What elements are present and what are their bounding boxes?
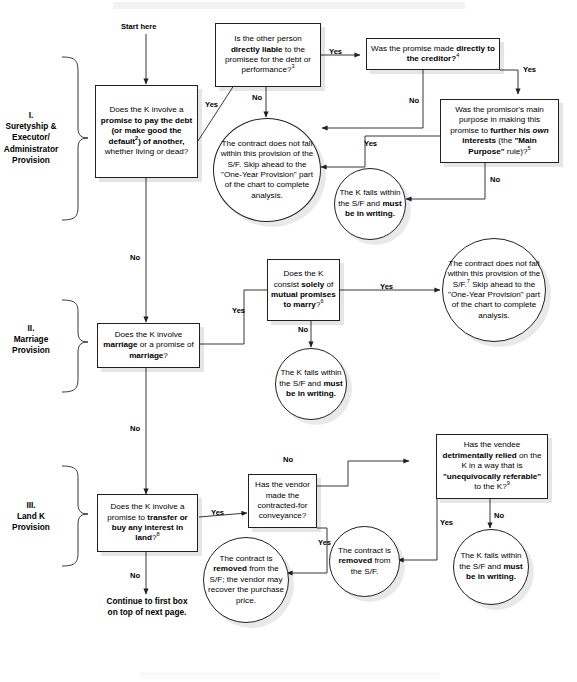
edge-label-q9-yes: Yes: [440, 518, 453, 527]
edge-label-q6-no: No: [298, 325, 308, 334]
node-c7-k-falls-within-sf-land[interactable]: The K falls within the S/F and must be i…: [453, 529, 529, 605]
edge-label-q2-no: No: [252, 93, 262, 102]
node-q3-promise-to-creditor[interactable]: Was the promise made directly to the cre…: [366, 38, 500, 70]
node-q4-text: Was the promisor's main purpose in makin…: [441, 105, 558, 157]
node-c2-k-falls-within-sf[interactable]: The K falls within the S/F and must be i…: [334, 168, 406, 240]
edge-label-q7-no: No: [130, 571, 140, 580]
continue-to-next-page-note: Continue to first box on top of next pag…: [80, 596, 214, 618]
section-label-suretyship: I.Suretyship &Executor/AdministratorProv…: [2, 110, 60, 166]
node-c5-contract-removed-vendor-recovers[interactable]: The contract is removed from the S/F; th…: [203, 537, 289, 623]
node-q1-text: Does the K involve a promise to pay the …: [96, 105, 197, 157]
edge-label-q2-yes: Yes: [329, 47, 342, 56]
node-q7-text: Does the K involve a promise to transfer…: [98, 502, 197, 544]
edge-label-q4-no: No: [490, 175, 500, 184]
node-q3-text: Was the promise made directly to the cre…: [367, 44, 499, 65]
node-c5-text: The contract is removed from the S/F; th…: [204, 554, 288, 606]
header-band: [113, 2, 465, 9]
node-q2-text: Is the other person directly liable to t…: [216, 34, 320, 76]
node-c1-contract-not-within-sf[interactable]: The contract does not fall within this p…: [213, 118, 321, 222]
node-q8-vendor-conveyance[interactable]: Has the vendor made the contracted-for c…: [248, 474, 317, 528]
node-c6-text: The contract is removed from the S/F.: [330, 546, 399, 577]
edge-label-q1-no: No: [130, 253, 140, 262]
node-q6-mutual-promises-to-marry[interactable]: Does the K consist solely of mutual prom…: [267, 259, 340, 321]
edge-label-q3-no: No: [409, 96, 419, 105]
edge-label-q5-no: No: [130, 424, 140, 433]
node-c3-contract-not-within-sf-marriage[interactable]: The contract does not fall within this p…: [442, 238, 546, 342]
node-q4-main-purpose-rule[interactable]: Was the promisor's main purpose in makin…: [440, 99, 559, 163]
edge-label-q5-yes: Yes: [232, 306, 245, 315]
node-c1-text: The contract does not fall within this p…: [214, 139, 320, 201]
statute-of-frauds-flowchart: I.Suretyship &Executor/AdministratorProv…: [0, 0, 577, 682]
edge-label-q7-yes: Yes: [211, 508, 224, 517]
node-q1-promise-to-pay-debt[interactable]: Does the K involve a promise to pay the …: [95, 85, 198, 178]
section-label-marriage: II.MarriageProvision: [2, 323, 60, 357]
node-q8-text: Has the vendor made the contracted-for c…: [249, 480, 316, 522]
start-here-label: Start here: [121, 22, 156, 31]
node-q9-text: Has the vendee detrimentally relied on t…: [437, 440, 547, 492]
node-c2-text: The K falls within the S/F and must be i…: [335, 188, 405, 219]
edge-label-q1-yes: Yes: [205, 100, 218, 109]
node-q2-directly-liable[interactable]: Is the other person directly liable to t…: [215, 23, 321, 87]
edge-label-q4-yes: Yes: [364, 139, 377, 148]
node-c6-contract-removed[interactable]: The contract is removed from the S/F.: [329, 526, 400, 597]
node-q7-interest-in-land[interactable]: Does the K involve a promise to transfer…: [97, 494, 198, 552]
node-q6-text: Does the K consist solely of mutual prom…: [268, 269, 339, 311]
node-q5-text: Does the K involve marriage or a promise…: [98, 330, 199, 361]
node-c3-text: The contract does not fall within this p…: [443, 259, 545, 321]
node-c4-k-falls-within-sf-marriage[interactable]: The K falls within the S/F and must be i…: [275, 348, 347, 420]
continue-note-line-1: Continue to first box: [106, 596, 187, 606]
section-label-land: III.Land KProvision: [2, 500, 60, 534]
edge-label-q8-no: No: [283, 455, 293, 464]
edge-label-q8-yes: Yes: [318, 538, 331, 547]
edge-label-q6-yes: Yes: [380, 282, 393, 291]
edge-label-q9-no: No: [494, 511, 504, 520]
node-q9-detrimental-reliance[interactable]: Has the vendee detrimentally relied on t…: [436, 434, 548, 499]
node-c4-text: The K falls within the S/F and must be i…: [276, 368, 346, 399]
continue-note-line-2: on top of next page.: [108, 607, 187, 617]
node-q5-marriage[interactable]: Does the K involve marriage or a promise…: [97, 323, 200, 368]
edge-label-q3-yes: Yes: [523, 65, 536, 74]
footer-band: [140, 672, 440, 679]
node-c7-text: The K falls within the S/F and must be i…: [454, 551, 528, 582]
